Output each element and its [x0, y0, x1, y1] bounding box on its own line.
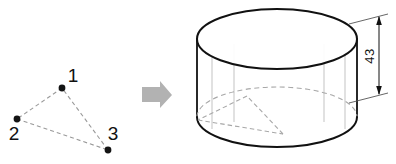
inscribed-edge-1-2: [198, 96, 247, 120]
cylinder-bottom-hidden-arc: [197, 87, 357, 117]
inscribed-edge-2-3: [198, 120, 283, 134]
triangle-edge-3-1: [62, 88, 108, 150]
point-triangle-group: 1 2 3: [9, 65, 119, 153]
inscribed-edge-3-1: [247, 96, 283, 134]
transition-arrow-group: [142, 81, 172, 108]
height-dimension-group: 43: [349, 14, 388, 103]
point-label-2: 2: [9, 123, 20, 144]
triangle-edge-1-2: [17, 88, 62, 119]
point-marker-2: [14, 116, 21, 123]
point-label-3: 3: [108, 123, 119, 144]
diagram-canvas: 1 2 3: [0, 0, 396, 164]
cylinder-bottom-visible-arc: [197, 117, 357, 147]
inscribed-triangle: [198, 96, 283, 134]
dimension-extension-top: [349, 14, 388, 24]
dimension-extension-bottom: [349, 93, 388, 103]
right-arrow-icon: [142, 81, 172, 108]
triangle-edge-2-3: [17, 119, 108, 150]
point-marker-3: [105, 147, 112, 154]
cylinder-group: [197, 9, 357, 147]
dimension-arrowhead-bottom: [376, 86, 382, 95]
dimension-arrowhead-top: [376, 16, 382, 25]
dimension-value-label: 43: [362, 48, 377, 63]
point-label-1: 1: [68, 65, 79, 86]
triangle-edges: [17, 88, 108, 150]
point-marker-1: [59, 85, 66, 92]
cylinder-top-ellipse: [197, 9, 357, 69]
figure-root: 1 2 3: [0, 0, 396, 164]
